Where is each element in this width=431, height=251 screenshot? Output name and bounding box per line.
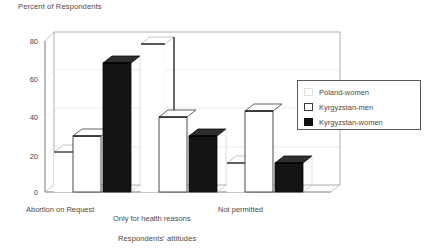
x-category-abortion-on-request: Abortion on Request bbox=[26, 205, 94, 214]
legend-swatch-kyrgyzstan-men bbox=[304, 103, 313, 111]
y-tick-20: 20 bbox=[22, 152, 38, 161]
legend-swatch-poland-women bbox=[304, 88, 313, 96]
x-category-only-for-health-reasons: Only for health reasons bbox=[113, 214, 191, 223]
legend-label-poland-women: Poland-women bbox=[319, 88, 369, 97]
x-axis-title: Respondents' attitudes bbox=[118, 234, 196, 243]
y-tick-60: 60 bbox=[22, 75, 38, 84]
legend-swatch-kyrgyzstan-women bbox=[304, 118, 313, 126]
x-category-not-permitted: Not permitted bbox=[218, 205, 263, 214]
legend-label-kyrgyzstan-women: Kyrgyzstan-women bbox=[319, 118, 383, 127]
y-tick-80: 80 bbox=[22, 37, 38, 46]
y-axis-ticks bbox=[45, 32, 54, 156]
chart-canvas: Percent of Respondents bbox=[0, 0, 431, 251]
legend-item-kyrgyzstan-women: Kyrgyzstan-women bbox=[304, 116, 383, 128]
legend-item-kyrgyzstan-men: Kyrgyzstan-men bbox=[304, 101, 373, 113]
y-tick-0: 0 bbox=[22, 188, 38, 197]
legend-item-poland-women: Poland-women bbox=[304, 86, 369, 98]
legend: Poland-women Kyrgyzstan-men Kyrgyzstan-w… bbox=[297, 80, 421, 130]
legend-label-kyrgyzstan-men: Kyrgyzstan-men bbox=[319, 103, 373, 112]
y-tick-40: 40 bbox=[22, 113, 38, 122]
